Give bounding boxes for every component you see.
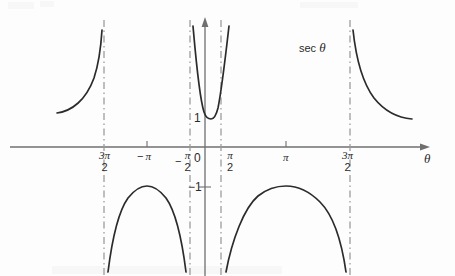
x-tick-denominator: 2 — [100, 162, 108, 174]
x-tick-numerator: π — [145, 151, 151, 162]
x-tick-denominator: 2 — [226, 162, 234, 174]
x-tick-label-neg-3pi-over-2: 3π 2 — [96, 150, 111, 173]
x-tick-numerator: 3π — [98, 150, 111, 162]
x-axis-tick-marks — [147, 141, 286, 147]
y-tick-label-minus-one: −1 — [188, 181, 202, 193]
x-axis-arrowhead — [420, 144, 430, 151]
x-tick-denominator: 2 — [343, 162, 351, 174]
secant-curve — [57, 26, 412, 272]
x-tick-denominator: 2 — [183, 162, 191, 174]
curve-branch-left-lower — [108, 186, 186, 272]
y-axis-arrowhead — [202, 17, 209, 27]
function-label-prefix: sec — [299, 42, 316, 54]
asymptote-group — [104, 20, 350, 276]
x-tick-label-neg-pi-over-2: − π 2 — [175, 150, 192, 173]
plot-canvas — [0, 0, 455, 276]
y-tick-label-one: 1 — [194, 112, 201, 124]
x-axis-label: θ — [424, 152, 430, 165]
x-tick-label-3pi-over-2: 3π 2 — [341, 150, 354, 173]
x-tick-numerator: π — [226, 150, 234, 162]
x-tick-label-pi: π — [283, 152, 289, 163]
x-tick-numerator: 3π — [341, 150, 354, 162]
curve-branch-right-lower — [226, 186, 346, 272]
function-label: secθ — [299, 41, 326, 54]
curve-branch-left-upper — [57, 30, 102, 113]
curve-branch-right-upper — [353, 30, 412, 119]
x-tick-label-pi-over-2: π 2 — [226, 150, 234, 173]
sec-theta-figure: secθ θ 1 −1 3π 2 − π − π 2 0 — [0, 0, 455, 276]
x-tick-sign: − — [175, 156, 181, 167]
x-tick-numerator: π — [184, 150, 192, 162]
x-axis — [10, 144, 430, 151]
x-tick-label-zero: 0 — [194, 152, 201, 164]
x-tick-sign: − — [137, 151, 143, 162]
x-tick-label-neg-pi: − π — [137, 151, 151, 162]
curve-branch-center-upper — [193, 26, 229, 119]
function-label-variable: θ — [319, 40, 325, 55]
